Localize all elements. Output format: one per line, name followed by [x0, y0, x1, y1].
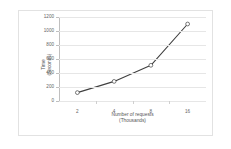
y-tick-label: 1200 — [44, 15, 54, 20]
y-axis-title-line2: (Seconds) — [47, 43, 53, 87]
y-tick-mark — [56, 87, 59, 88]
x-axis-title: Number of requests (Thousands) — [59, 112, 206, 124]
x-tick-mark — [133, 101, 134, 104]
y-gridline — [59, 87, 206, 88]
y-gridline — [59, 31, 206, 32]
data-point-marker — [186, 22, 190, 26]
y-tick-mark — [56, 17, 59, 18]
y-tick-label: 0 — [51, 99, 54, 104]
y-gridline — [59, 45, 206, 46]
y-tick-mark — [56, 59, 59, 60]
x-tick-mark — [169, 101, 170, 104]
x-tick-mark — [96, 101, 97, 104]
x-axis-title-line2: (Thousands) — [59, 118, 206, 124]
y-gridline — [59, 59, 206, 60]
data-point-marker — [149, 63, 153, 67]
y-gridline — [59, 73, 206, 74]
plot-area: 02004006008001000120024816 — [59, 17, 206, 101]
data-point-marker — [75, 91, 79, 95]
y-tick-label: 1000 — [44, 29, 54, 34]
y-tick-mark — [56, 31, 59, 32]
chart-frame: 02004006008001000120024816 Number of req… — [18, 10, 213, 136]
y-tick-mark — [56, 101, 59, 102]
y-axis-title: Time (Seconds) — [41, 43, 52, 87]
y-tick-mark — [56, 45, 59, 46]
data-point-marker — [112, 80, 116, 84]
y-gridline — [59, 17, 206, 18]
y-tick-mark — [56, 73, 59, 74]
page-background: 02004006008001000120024816 Number of req… — [0, 0, 231, 149]
